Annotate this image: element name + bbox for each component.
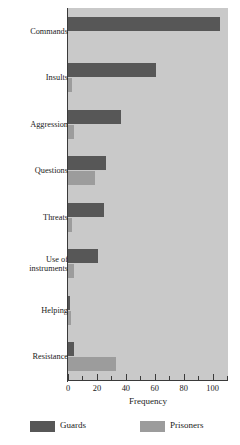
bar-prisoners-use-of-instruments [68, 264, 74, 278]
category-label-insults: Insults [2, 73, 68, 82]
x-tick-label-100: 100 [201, 384, 225, 393]
bar-prisoners-helping [68, 311, 71, 325]
chart-legend: GuardsPrisoners [0, 420, 240, 440]
x-axis-title: Frequency [68, 396, 228, 406]
category-label-aggression: Aggression [2, 120, 68, 129]
x-tick-mark-20 [97, 374, 98, 381]
category-label-questions: Questions [2, 166, 68, 175]
legend-label-prisoners: Prisoners [170, 420, 204, 430]
bar-prisoners-aggression [68, 125, 74, 139]
x-tick-mark-40 [126, 374, 127, 381]
x-tick-mark-60 [155, 374, 156, 381]
x-tick-label-40: 40 [114, 384, 138, 393]
x-tick-label-80: 80 [172, 384, 196, 393]
x-tick-mark-80 [184, 374, 185, 381]
x-tick-mark-110 [227, 376, 228, 381]
x-axis-line [67, 380, 228, 381]
category-label-commands: Commands [2, 27, 68, 36]
x-tick-label-20: 20 [85, 384, 109, 393]
x-tick-mark-50 [140, 376, 141, 381]
category-label-threats: Threats [2, 213, 68, 222]
bar-prisoners-insults [68, 78, 72, 92]
bar-prisoners-threats [68, 218, 72, 232]
x-tick-mark-100 [213, 374, 214, 381]
category-label-use-of-instruments: Use of instruments [2, 255, 68, 273]
legend-swatch-prisoners [140, 421, 165, 432]
bar-chart: CommandsInsultsAggressionQuestionsThreat… [0, 0, 240, 445]
bar-guards-threats [68, 203, 104, 217]
x-tick-mark-0 [68, 374, 69, 381]
bar-guards-resistance [68, 342, 74, 356]
x-tick-mark-10 [82, 376, 83, 381]
bar-guards-questions [68, 156, 106, 170]
x-tick-label-0: 0 [56, 384, 80, 393]
x-tick-mark-90 [198, 376, 199, 381]
bar-guards-helping [68, 296, 70, 310]
legend-swatch-guards [30, 421, 55, 432]
bar-prisoners-questions [68, 171, 95, 185]
bar-guards-commands [68, 17, 220, 31]
bar-guards-insults [68, 63, 156, 77]
x-tick-label-60: 60 [143, 384, 167, 393]
legend-label-guards: Guards [60, 420, 86, 430]
bar-guards-aggression [68, 110, 121, 124]
x-tick-mark-70 [169, 376, 170, 381]
bar-prisoners-resistance [68, 357, 116, 371]
bar-guards-use-of-instruments [68, 249, 98, 263]
x-tick-mark-30 [111, 376, 112, 381]
category-label-resistance: Resistance [2, 352, 68, 361]
category-label-helping: Helping [2, 306, 68, 315]
